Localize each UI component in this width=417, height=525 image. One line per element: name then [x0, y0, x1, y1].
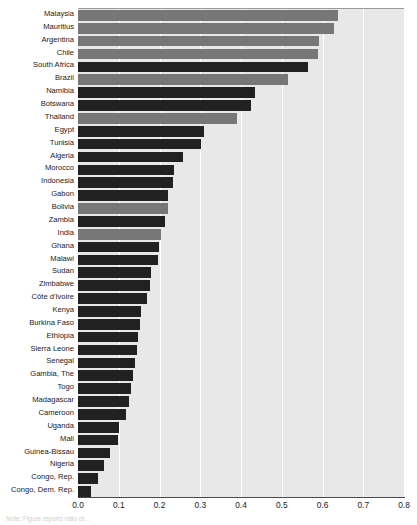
bar	[78, 448, 110, 459]
y-axis-label: Ghana	[0, 240, 74, 253]
y-axis-labels: MalaysiaMauritiusArgentinaChileSouth Afr…	[0, 8, 74, 497]
y-axis-label: Zimbabwe	[0, 278, 74, 291]
y-axis-label: Ethiopia	[0, 330, 74, 343]
y-axis-label: India	[0, 227, 74, 240]
x-axis-tick-label: 0.7	[357, 500, 369, 510]
bar	[78, 49, 318, 60]
bar	[78, 345, 137, 356]
bar	[78, 306, 141, 317]
bar	[78, 422, 119, 433]
bar	[78, 280, 150, 291]
x-axis-tick-label: 0.3	[194, 500, 206, 510]
y-axis-label: Mali	[0, 433, 74, 446]
bar	[78, 473, 98, 484]
y-axis-label: Mauritius	[0, 21, 74, 34]
bar-row	[78, 228, 404, 241]
bar-row	[78, 447, 404, 460]
y-axis-label: Côte d'Ivoire	[0, 291, 74, 304]
y-axis-label: Burkina Faso	[0, 317, 74, 330]
bar	[78, 242, 159, 253]
y-axis-label: Congo, Dem. Rep.	[0, 484, 74, 497]
plot-panel	[78, 8, 404, 498]
bar-row	[78, 9, 404, 22]
gridline	[404, 9, 405, 498]
y-axis-label: Bolivia	[0, 201, 74, 214]
bar	[78, 36, 319, 47]
bar	[78, 126, 204, 137]
bar-row	[78, 318, 404, 331]
y-axis-label: Botswana	[0, 98, 74, 111]
y-axis-label: Chile	[0, 47, 74, 60]
bar-row	[78, 125, 404, 138]
y-axis-label: Indonesia	[0, 175, 74, 188]
bar-row	[78, 35, 404, 48]
y-axis-label: Argentina	[0, 34, 74, 47]
bar	[78, 62, 308, 73]
bar-rows	[78, 9, 404, 498]
bar-row	[78, 241, 404, 254]
y-axis-label: Sudan	[0, 265, 74, 278]
bar	[78, 332, 138, 343]
y-axis-label: Madagascar	[0, 394, 74, 407]
bar	[78, 293, 147, 304]
bar	[78, 255, 158, 266]
bar-row	[78, 369, 404, 382]
bar-row	[78, 176, 404, 189]
bar-row	[78, 395, 404, 408]
bar	[78, 486, 91, 497]
bar	[78, 152, 183, 163]
bar	[78, 409, 126, 420]
bar-row	[78, 434, 404, 447]
x-axis-tick-label: 0.2	[154, 500, 166, 510]
bar	[78, 460, 104, 471]
y-axis-label: Namibia	[0, 85, 74, 98]
bar	[78, 319, 140, 330]
y-axis-label: Brazil	[0, 72, 74, 85]
y-axis-label: Gambia, The	[0, 368, 74, 381]
bar	[78, 190, 168, 201]
bar-chart: MalaysiaMauritiusArgentinaChileSouth Afr…	[0, 0, 417, 525]
bar-row	[78, 73, 404, 86]
bar-row	[78, 86, 404, 99]
x-axis-tick-label: 0.8	[398, 500, 410, 510]
bar-row	[78, 292, 404, 305]
bar-row	[78, 215, 404, 228]
bar-row	[78, 189, 404, 202]
y-axis-label: Thailand	[0, 111, 74, 124]
chart-footnote: Note: Figure reports ratio of...	[6, 515, 411, 524]
y-axis-label: Cameroon	[0, 407, 74, 420]
bar-row	[78, 331, 404, 344]
x-axis-tick-label: 0.1	[113, 500, 125, 510]
bar-row	[78, 344, 404, 357]
x-axis-tick-label: 0.4	[235, 500, 247, 510]
bar-row	[78, 279, 404, 292]
bar-row	[78, 421, 404, 434]
x-axis-tick-label: 0.5	[276, 500, 288, 510]
bar-row	[78, 138, 404, 151]
bar	[78, 74, 288, 85]
bar-row	[78, 22, 404, 35]
bar	[78, 370, 133, 381]
y-axis-label: South Africa	[0, 59, 74, 72]
y-axis-label: Togo	[0, 381, 74, 394]
y-axis-label: Algeria	[0, 150, 74, 163]
bar	[78, 177, 173, 188]
bar-row	[78, 408, 404, 421]
bar	[78, 23, 334, 34]
y-axis-label: Gabon	[0, 188, 74, 201]
bar-row	[78, 356, 404, 369]
bar-row	[78, 202, 404, 215]
y-axis-label: Guinea-Bissau	[0, 446, 74, 459]
bar	[78, 358, 135, 369]
bar	[78, 87, 255, 98]
y-axis-label: Zambia	[0, 214, 74, 227]
bar-row	[78, 266, 404, 279]
bar-row	[78, 48, 404, 61]
bar	[78, 396, 129, 407]
x-axis-ticks: 0.00.10.20.30.40.50.60.70.8	[0, 498, 417, 512]
bar-row	[78, 99, 404, 112]
bar	[78, 216, 165, 227]
bar-row	[78, 254, 404, 267]
bar	[78, 435, 118, 446]
bar-row	[78, 112, 404, 125]
